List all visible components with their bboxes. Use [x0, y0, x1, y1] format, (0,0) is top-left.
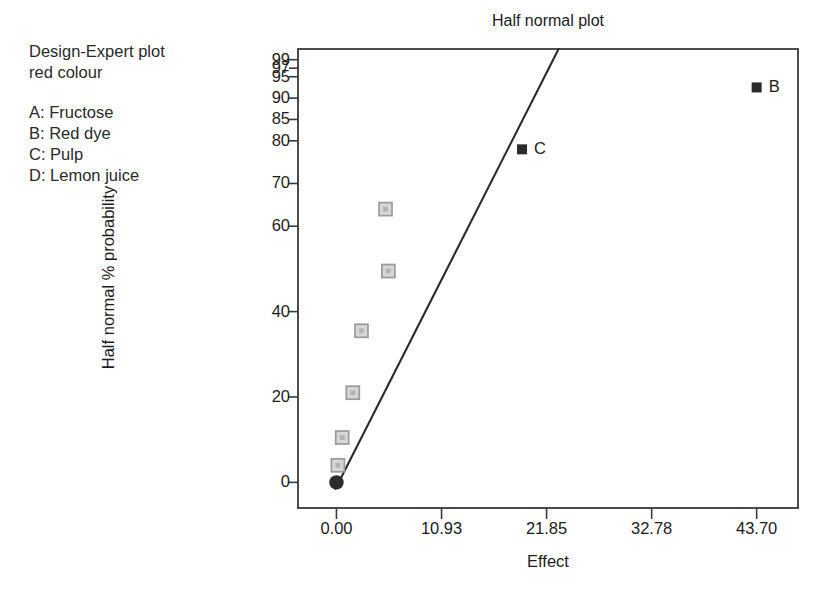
design-expert-annotation-block: Design-Expert plot red colour A: Fructos…: [29, 41, 239, 186]
data-point-c: [517, 144, 527, 154]
reference-line: [336, 49, 559, 489]
factor-item-c: C: Pulp: [29, 144, 239, 165]
factor-key-c: C:: [29, 144, 46, 165]
y-axis-title: Half normal % probability: [99, 78, 118, 478]
point-label-b: B: [769, 77, 780, 96]
plot-frame: [298, 49, 798, 508]
chart-title: Half normal plot: [298, 12, 798, 30]
y-tick-label-85: 85: [230, 110, 290, 127]
factor-item-d: D: Lemon juice: [29, 165, 239, 186]
y-tick-label-99: 99: [230, 51, 290, 68]
data-point-0-5-core: [383, 207, 388, 212]
data-point-0-0-core: [336, 463, 341, 468]
y-tick-label-90: 90: [230, 89, 290, 106]
x-tick-label-0.00: 0.00: [291, 519, 381, 538]
x-tick-label-21.85: 21.85: [502, 519, 592, 538]
y-tick-label-20: 20: [230, 388, 290, 405]
data-point-0-2-core: [350, 390, 355, 395]
y-axis-tick-labels: 020406070808590959799: [228, 0, 290, 601]
factor-key-a: A:: [29, 102, 45, 123]
data-point-2-0: [329, 475, 343, 489]
factor-key-b: B:: [29, 123, 45, 144]
x-tick-label-10.93: 10.93: [397, 519, 487, 538]
y-tick-label-0: 0: [230, 473, 290, 490]
y-tick-label-80: 80: [230, 132, 290, 149]
x-axis-tick-labels: 0.0010.9321.8532.7843.70: [0, 519, 831, 549]
axis-tick-marks: [289, 60, 757, 519]
factor-name-c: Pulp: [50, 145, 83, 163]
data-point-0-3-core: [359, 328, 364, 333]
factor-key-d: D:: [29, 165, 46, 186]
data-point-0-4-core: [386, 269, 391, 274]
data-point-b: [752, 82, 762, 92]
annotation-header-line-1: Design-Expert plot: [29, 41, 239, 62]
half-normal-plot-figure: Design-Expert plot red colour A: Fructos…: [0, 0, 831, 601]
x-tick-label-32.78: 32.78: [607, 519, 697, 538]
factor-item-a: A: Fructose: [29, 102, 239, 123]
y-tick-label-40: 40: [230, 303, 290, 320]
data-point-0-1-core: [340, 435, 345, 440]
y-tick-label-70: 70: [230, 174, 290, 191]
factor-item-b: B: Red dye: [29, 123, 239, 144]
annotation-header-line-2: red colour: [29, 62, 239, 83]
factor-list: A: Fructose B: Red dye C: Pulp D: Lemon …: [29, 102, 239, 186]
point-label-c: C: [534, 139, 546, 158]
y-tick-label-60: 60: [230, 217, 290, 234]
x-axis-title: Effect: [298, 552, 798, 571]
x-tick-label-43.70: 43.70: [712, 519, 802, 538]
factor-name-d: Lemon juice: [50, 166, 139, 184]
